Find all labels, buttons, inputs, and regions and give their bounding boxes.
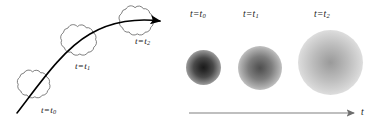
label-t1-right-sub: 1 [255,12,258,19]
figure-canvas: t=t0 t=t1 t=t2 t=t0 t=t1 t=t2 t [0,0,373,131]
label-t2-left-sub: 2 [147,39,150,46]
left-panel-graphics [0,0,187,131]
label-time-t2-right: t=t2 [314,9,330,20]
label-time-t0-left: t=t0 [41,106,56,116]
label-t2-right-eq: = [317,8,324,19]
label-time-t1-right: t=t1 [243,9,259,20]
density-blob-t0 [186,50,221,85]
label-t0-right-eq: = [193,8,200,19]
trajectory-clouds-panel: t=t0 t=t1 t=t2 [0,0,187,131]
label-t1-left-sub: 1 [87,64,90,71]
density-blob-t1 [238,46,282,90]
label-time-t0-right: t=t0 [190,9,206,20]
label-t0-right-sub: 0 [202,12,205,19]
cloud-shape-t1 [61,25,97,56]
label-t2-right-sub: 2 [326,12,329,19]
label-t0-left-sub: 0 [53,108,56,115]
density-blob-t2 [298,30,363,95]
cloud-shape-t0 [17,70,50,98]
label-axis-t-var: t [361,106,364,117]
label-time-axis: t [361,107,364,117]
time-axis-arrow [188,105,363,121]
label-time-t2-left: t=t2 [135,37,150,47]
label-time-t1-left: t=t1 [75,62,90,72]
label-t1-right-eq: = [246,8,253,19]
